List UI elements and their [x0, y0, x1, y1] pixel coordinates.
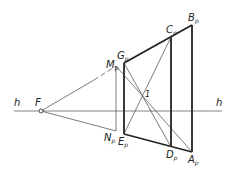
diag-gp-dp — [124, 63, 171, 147]
edge-ep-ap — [124, 134, 192, 152]
label-ep: Ep — [118, 136, 128, 149]
diag-ep-cp — [124, 37, 171, 134]
diag-mp-ap — [116, 66, 192, 152]
vanishing-point-marker — [39, 109, 43, 113]
perspective-diagram: h h F Gp Mp Cp Bp Np Ep Dp Ap 1 — [0, 0, 229, 176]
label-np: Np — [104, 132, 115, 145]
ray-f-to-np — [41, 111, 116, 131]
label-f: F — [35, 97, 41, 108]
label-gp: Gp — [117, 50, 129, 63]
horizon-label-right: h — [216, 97, 222, 108]
label-cp: Cp — [166, 24, 177, 37]
label-dp: Dp — [166, 149, 178, 162]
horizon-label-left: h — [14, 97, 20, 108]
label-bp: Bp — [188, 12, 199, 25]
edge-gp-bp — [124, 25, 192, 63]
label-ap: Ap — [187, 154, 199, 167]
ray-f-to-mp — [41, 80, 94, 111]
label-intersection-1: 1 — [145, 90, 150, 99]
